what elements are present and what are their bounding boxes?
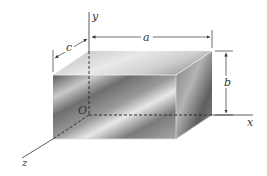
z-axis <box>22 139 53 158</box>
label-a: a <box>143 31 150 44</box>
label-origin: O <box>78 104 87 117</box>
box-diagram: a b c y x z O <box>0 0 267 176</box>
label-x: x <box>247 116 254 129</box>
label-b: b <box>224 76 231 89</box>
box-front-face <box>53 75 176 139</box>
label-y: y <box>91 10 99 23</box>
label-z: z <box>21 157 28 168</box>
label-c: c <box>66 41 72 54</box>
